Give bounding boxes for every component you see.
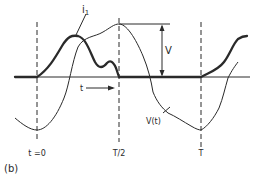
panel-label: (b) [4, 163, 18, 174]
tick-label-t-half: T/2 [112, 149, 126, 158]
tick-label-t-period: T [198, 149, 204, 158]
voltage-label: V(t) [146, 117, 161, 126]
time-arrow-label: t [80, 84, 83, 93]
waveform-diagram: i1 V t V(t) t =0 T/2 T (b) [0, 0, 259, 185]
current-label: i1 [82, 4, 89, 17]
amplitude-label: V [165, 45, 172, 56]
amplitude-arrow [160, 25, 165, 77]
current-waveform-i1 [15, 36, 247, 77]
current-label-leader [76, 14, 86, 35]
tick-label-t0: t =0 [28, 149, 45, 158]
time-direction-arrow [86, 86, 115, 91]
